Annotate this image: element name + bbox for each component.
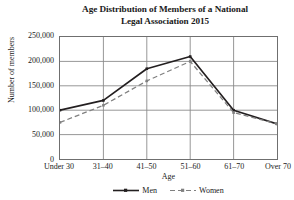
legend-swatch-men xyxy=(113,186,139,195)
y-tick-label: 250,000 xyxy=(8,32,54,40)
data-point-men xyxy=(102,99,105,102)
legend-item-men: Men xyxy=(113,186,157,195)
legend-item-women: Women xyxy=(170,186,224,195)
data-point-men xyxy=(146,67,149,70)
y-tick-label: 50,000 xyxy=(8,131,54,139)
series-line-men xyxy=(60,57,277,124)
data-point-women xyxy=(146,80,149,83)
legend-label: Men xyxy=(142,186,157,195)
data-point-men xyxy=(60,109,61,112)
data-point-women xyxy=(189,60,192,63)
chart-title-line-1: Age Distribution of Members of a Nationa… xyxy=(40,4,290,16)
y-tick-label: 150,000 xyxy=(8,82,54,90)
chart-title-line-2: Legal Association 2015 xyxy=(40,16,290,28)
data-point-women xyxy=(102,104,105,107)
data-point-women xyxy=(60,121,61,124)
data-point-women xyxy=(276,123,277,126)
legend-marker xyxy=(124,188,127,191)
chart-title: Age Distribution of Members of a Nationa… xyxy=(40,4,290,27)
data-point-women xyxy=(232,111,235,114)
series-line-women xyxy=(60,61,277,123)
y-tick-label: 200,000 xyxy=(8,57,54,65)
chart-legend: MenWomen xyxy=(59,183,278,197)
legend-label: Women xyxy=(199,186,224,195)
y-tick-label: 100,000 xyxy=(8,106,54,114)
x-axis-label: Age xyxy=(59,172,278,181)
plot-area xyxy=(59,36,278,160)
chart-figure: Age Distribution of Members of a Nationa… xyxy=(0,0,294,200)
data-point-men xyxy=(189,55,192,58)
x-tick-label: Over 70 xyxy=(250,162,294,172)
legend-swatch-women xyxy=(170,186,196,195)
legend-marker xyxy=(181,188,184,191)
plot-svg xyxy=(60,37,277,159)
